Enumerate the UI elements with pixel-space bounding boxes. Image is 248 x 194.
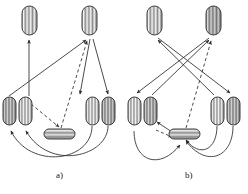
edge-center-to-midleftinner (157, 122, 172, 132)
node-mid-left-inner-capsule (19, 97, 32, 125)
figure-canvas: a) b) (0, 0, 248, 194)
edge-midleftinner-to-topright (152, 40, 209, 95)
node-bottom-center-capsule (169, 129, 200, 139)
node-mid-right-inner-capsule (86, 97, 99, 125)
edge-midleftinner-to-center-dash (31, 104, 59, 127)
panel-b (128, 6, 240, 160)
node-top-right-capsule (82, 6, 97, 35)
panel-a-caption: a) (56, 170, 63, 180)
node-mid-left-outer-capsule (128, 97, 141, 125)
figure-svg (0, 0, 248, 194)
node-mid-right-outer-capsule (102, 97, 115, 125)
node-mid-right-outer-capsule (227, 97, 240, 125)
node-mid-right-inner-capsule (211, 97, 224, 125)
node-bottom-center-capsule (44, 129, 75, 139)
panel-b-nodes (128, 6, 240, 139)
node-mid-left-inner-capsule (144, 97, 157, 125)
edge-midleft-to-topright (9, 40, 86, 96)
panel-a (3, 6, 115, 157)
node-mid-left-outer-capsule (3, 97, 16, 125)
edge-topright-to-midrightouter (93, 39, 108, 94)
edge-midrightinner-to-topleft (158, 40, 214, 95)
node-top-right-capsule (206, 6, 221, 35)
node-top-left-capsule (22, 6, 37, 35)
edge-topright-to-midleftouter (137, 38, 209, 93)
edge-topleft-to-midrightouter (158, 38, 230, 93)
edge-center-to-topright-dash (186, 41, 211, 128)
panel-b-caption: b) (185, 170, 193, 180)
edge-center-to-topright-dash (61, 41, 87, 128)
panel-a-nodes (3, 6, 115, 139)
node-top-left-capsule (147, 6, 162, 35)
